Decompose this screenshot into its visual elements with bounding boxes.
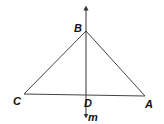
label-c: C (13, 95, 22, 107)
label-d: D (84, 97, 92, 109)
triangle-diagram: B C D A m (0, 0, 164, 124)
label-m: m (88, 111, 98, 123)
segment-ba (86, 31, 145, 96)
label-b: B (74, 22, 82, 34)
segment-ca (24, 94, 145, 96)
label-a: A (144, 98, 153, 110)
segment-cb (24, 31, 86, 94)
